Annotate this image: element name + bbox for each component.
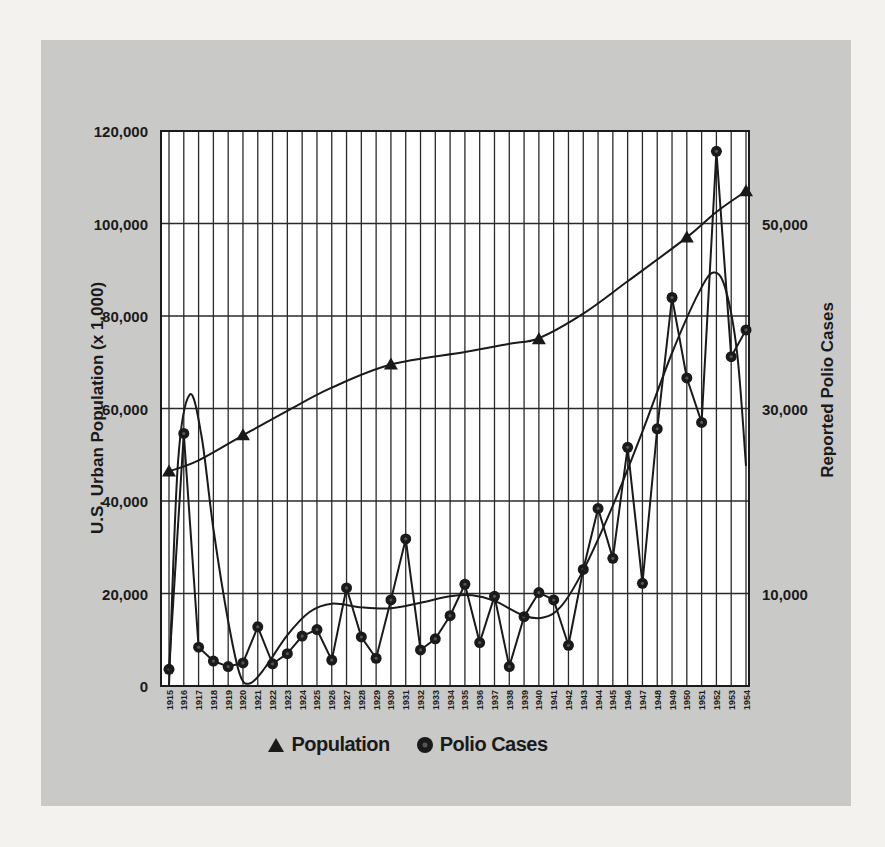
right-tick-label: 50,000 [762,216,808,233]
x-tick-label: 1938 [505,690,515,710]
x-tick-label: 1925 [312,690,322,710]
x-tick-label: 1944 [594,690,604,710]
legend: Population Polio Cases [0,733,850,756]
left-axis-title: U.S. Urban Population (x 1,000) [88,282,107,534]
x-tick-label: 1935 [460,690,470,710]
x-tick-label: 1951 [697,690,707,710]
x-tick-label: 1932 [416,690,426,710]
x-tick-label: 1954 [742,690,752,710]
x-tick-label: 1948 [653,690,663,710]
x-tick-label: 1922 [268,690,278,710]
x-tick-label: 1930 [386,690,396,710]
right-tick-label: 10,000 [762,586,808,603]
left-tick-label: 120,000 [94,123,148,140]
x-tick-label: 1943 [579,690,589,710]
x-tick-label: 1949 [668,690,678,710]
left-tick-label: 20,000 [102,586,148,603]
left-tick-label: 60,000 [102,401,148,418]
x-tick-label: 1936 [475,690,485,710]
left-tick-label: 100,000 [94,216,148,233]
x-tick-label: 1926 [327,690,337,710]
x-tick-label: 1953 [727,690,737,710]
legend-item-population: Population [267,733,389,756]
x-tick-label: 1928 [357,690,367,710]
x-tick-label: 1924 [298,690,308,710]
x-axis-year-labels: 1915191619171918191919201921192219231924… [165,690,752,710]
x-tick-label: 1946 [623,690,633,710]
legend-label-population: Population [291,733,389,756]
legend-label-polio-cases: Polio Cases [440,733,548,756]
x-tick-label: 1945 [608,690,618,710]
x-tick-label: 1941 [549,690,559,710]
left-tick-label: 0 [140,678,148,695]
legend-item-polio-cases: Polio Cases [416,733,548,756]
x-tick-label: 1933 [431,690,441,710]
x-tick-label: 1939 [520,690,530,710]
x-tick-label: 1947 [638,690,648,710]
right-tick-label: 30,000 [762,401,808,418]
x-tick-label: 1934 [446,690,456,710]
x-tick-label: 1917 [194,690,204,710]
left-tick-label: 40,000 [102,493,148,510]
x-tick-label: 1918 [209,690,219,710]
dual-axis-line-chart: 020,00040,00060,00080,000100,000120,000 … [0,0,885,847]
x-tick-label: 1921 [253,690,263,710]
x-tick-label: 1920 [238,690,248,710]
x-tick-label: 1915 [165,690,175,710]
x-tick-label: 1929 [372,690,382,710]
right-axis-ticks: 10,00030,00050,000 [762,216,808,603]
x-tick-label: 1950 [682,690,692,710]
x-tick-label: 1919 [224,690,234,710]
right-axis-title: Reported Polio Cases [818,302,837,478]
x-tick-label: 1927 [342,690,352,710]
circle-marker-icon [416,736,434,754]
x-tick-label: 1931 [401,690,411,710]
triangle-marker-icon [267,737,285,753]
x-tick-label: 1952 [712,690,722,710]
x-tick-label: 1942 [564,690,574,710]
x-tick-label: 1916 [179,690,189,710]
x-tick-label: 1923 [283,690,293,710]
left-tick-label: 80,000 [102,308,148,325]
x-tick-label: 1940 [534,690,544,710]
x-tick-label: 1937 [490,690,500,710]
